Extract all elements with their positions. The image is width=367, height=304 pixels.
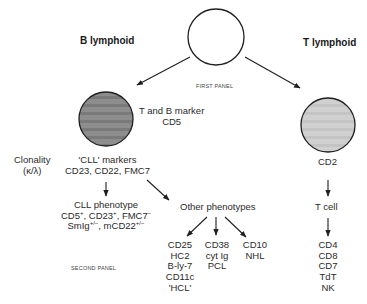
first-panel-label: FIRST PANEL (196, 81, 233, 92)
cll-markers-label: 'CLL' markers CD23, CD22, FMC7 (65, 155, 150, 176)
group-line: 'HCL' (165, 283, 195, 294)
other-phenotypes-title: Other phenotypes (180, 201, 256, 212)
cll-phenotype-label: CLL phenotype CD5+, CD23+, FMC7− SmIg+/−… (61, 200, 151, 232)
arrow-to-other-phenotypes (147, 180, 169, 200)
arrow-to-group-3 (225, 217, 246, 237)
phenotype-group-hcl: CD25 HC2 B-ly-7 CD11c 'HCL' (165, 240, 195, 294)
clonality-line2: (κ/λ) (14, 166, 50, 177)
arrow-to-t (245, 57, 300, 88)
arrow-to-b (137, 57, 190, 85)
t-node-marker: CD2 (318, 156, 337, 167)
clonality-label: Clonality (κ/λ) (14, 155, 50, 176)
stem-cell-circle (188, 9, 244, 65)
cll-phenotype-line3: SmIg+/−, mCD22+/− (61, 221, 151, 232)
arrow-to-group-1 (187, 217, 207, 236)
t-cell-circle (301, 98, 355, 152)
b-node-marker-line2: CD5 (139, 117, 204, 128)
t-marker: NK (313, 283, 343, 294)
b-lymphoid-title: B lymphoid (80, 35, 134, 46)
second-panel-label: SECOND PANEL (71, 263, 116, 274)
group-line: NHL (240, 251, 270, 262)
cll-markers-line2: CD23, CD22, FMC7 (65, 166, 150, 177)
b-cell-circle (79, 92, 133, 146)
t-lymphoid-title: T lymphoid (303, 37, 356, 48)
phenotype-group-nhl: CD10 NHL (240, 240, 270, 261)
t-cell-markers: CD4 CD8 CD7 TdT NK (313, 240, 343, 294)
group-line: PCL (202, 261, 232, 272)
b-node-marker: T and B marker CD5 (139, 106, 204, 127)
phenotype-group-pcl: CD38 cyt Ig PCL (202, 240, 232, 272)
t-cell-label: T cell (315, 201, 338, 212)
